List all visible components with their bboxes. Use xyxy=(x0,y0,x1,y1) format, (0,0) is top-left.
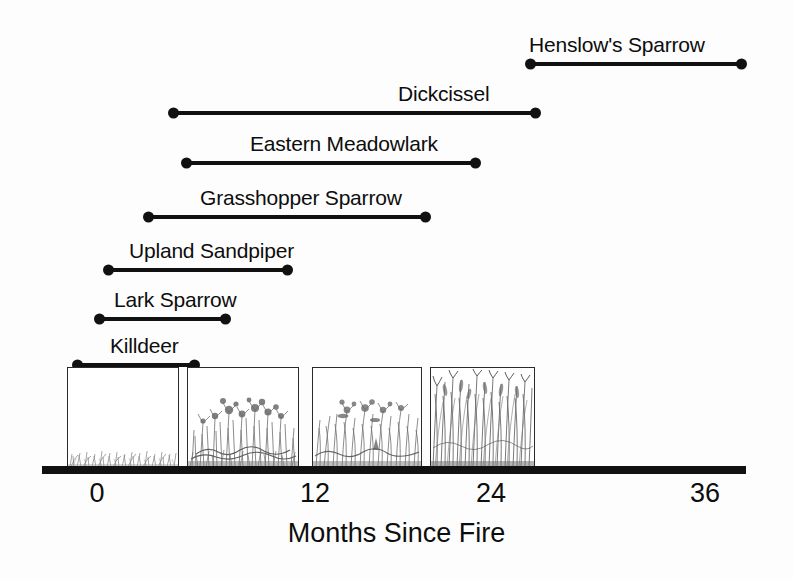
x-axis-title: Months Since Fire xyxy=(0,518,793,549)
species-row-henslows-sparrow: Henslow's Sparrow xyxy=(0,24,793,70)
species-row-killdeer: Killdeer xyxy=(0,325,793,371)
species-range-line xyxy=(98,317,227,321)
species-label: Grasshopper Sparrow xyxy=(200,186,402,209)
vegetation-illustration-36 xyxy=(431,368,534,469)
species-label: Upland Sandpiper xyxy=(129,239,294,262)
vegetation-illustration-0 xyxy=(68,368,178,469)
species-range-line xyxy=(172,111,537,115)
species-label: Dickcissel xyxy=(398,82,489,105)
chart-figure: Henslow's Sparrow Dickcissel Eastern Mea… xyxy=(0,0,793,579)
species-label: Killdeer xyxy=(110,334,178,357)
species-label: Henslow's Sparrow xyxy=(529,33,705,56)
species-range-line xyxy=(529,62,743,66)
vegetation-panel-12 xyxy=(187,367,299,470)
vegetation-panel-36 xyxy=(430,367,535,470)
species-row-grasshopper-sparrow: Grasshopper Sparrow xyxy=(0,177,793,223)
x-axis-tick-24: 24 xyxy=(476,478,506,508)
species-label: Eastern Meadowlark xyxy=(250,132,438,155)
species-range-line xyxy=(185,161,477,165)
x-axis-tick-12: 12 xyxy=(300,478,330,508)
species-range-line xyxy=(76,363,196,367)
vegetation-illustration-12 xyxy=(188,368,298,469)
species-row-upland-sandpiper: Upland Sandpiper xyxy=(0,230,793,276)
vegetation-illustration-24 xyxy=(313,368,421,469)
vegetation-panel-24 xyxy=(312,367,422,470)
species-range-line xyxy=(107,268,289,272)
species-row-eastern-meadowlark: Eastern Meadowlark xyxy=(0,123,793,169)
species-row-dickcissel: Dickcissel xyxy=(0,73,793,119)
species-label: Lark Sparrow xyxy=(114,288,236,311)
x-axis-line xyxy=(42,466,746,474)
species-row-lark-sparrow: Lark Sparrow xyxy=(0,279,793,325)
species-range-line xyxy=(147,215,427,219)
vegetation-panel-0 xyxy=(67,367,179,470)
x-axis-tick-0: 0 xyxy=(89,478,104,508)
x-axis-tick-36: 36 xyxy=(690,478,720,508)
